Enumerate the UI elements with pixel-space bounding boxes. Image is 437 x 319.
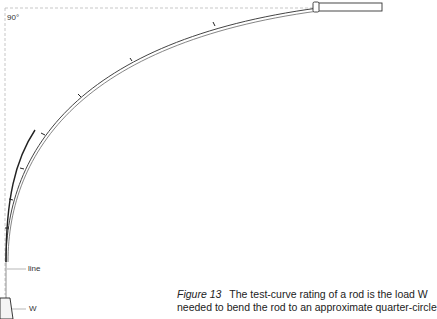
line-label: line: [28, 264, 40, 273]
angle-label: 90°: [7, 13, 19, 22]
figure-number: Figure 13: [177, 288, 221, 300]
caption-line-2: needed to bend the rod to an approximate…: [177, 301, 383, 314]
rod-guides: [5, 22, 215, 228]
figure-caption: Figure 13The test-curve rating of a rod …: [177, 288, 383, 314]
rod-handle: [313, 2, 382, 12]
weight-icon: [0, 298, 13, 319]
quarter-circle-guide: [5, 8, 318, 295]
bent-rod: [6, 8, 318, 262]
caption-text-1: The test-curve rating of a rod is the lo…: [229, 288, 427, 300]
caption-line-1: Figure 13The test-curve rating of a rod …: [177, 288, 383, 301]
weight-label: W: [29, 304, 37, 313]
